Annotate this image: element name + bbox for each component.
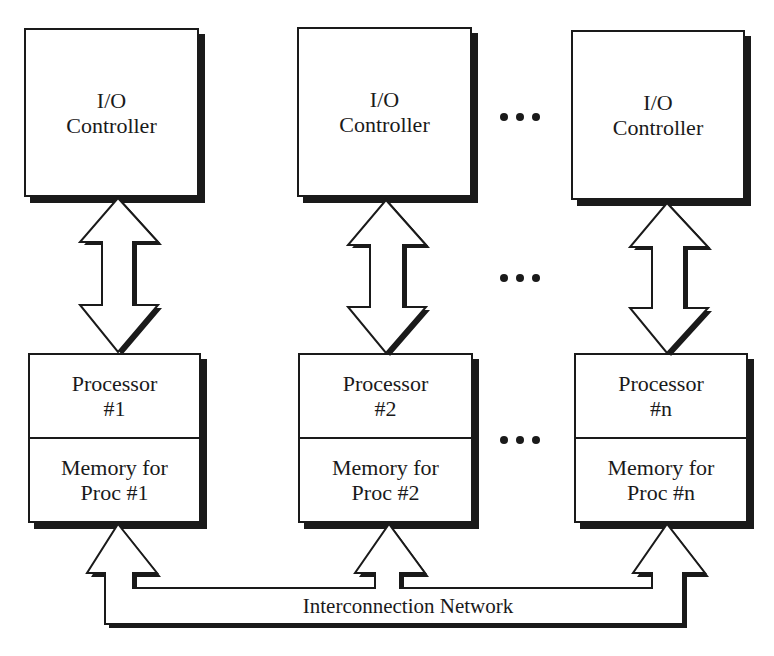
dot-icon — [516, 113, 524, 121]
dot-icon — [500, 113, 508, 121]
dot-icon — [532, 436, 540, 444]
dot-icon — [532, 113, 540, 121]
dot-icon — [516, 274, 524, 282]
dot-icon — [500, 274, 508, 282]
bidirectional-arrow-n-icon — [630, 203, 708, 353]
dot-icon — [516, 436, 524, 444]
ellipsis-bottom — [500, 436, 540, 444]
dot-icon — [532, 274, 540, 282]
dot-icon — [500, 436, 508, 444]
ellipsis-middle — [500, 274, 540, 282]
interconnection-network-label: Interconnection Network — [258, 594, 558, 619]
bidirectional-arrow-1-icon — [80, 198, 158, 352]
bidirectional-arrow-2-icon — [348, 200, 426, 353]
connectors-layer — [0, 0, 774, 656]
ellipsis-top — [500, 113, 540, 121]
